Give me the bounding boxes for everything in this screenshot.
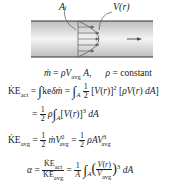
area-label: A <box>59 1 65 12</box>
pipe-velocity-profile-diagram <box>0 0 194 66</box>
ke-act-equation: K̇Eact = ∫keδṁ = ∫A 12 [V(r)]2 [ρV(r) dA… <box>8 83 159 100</box>
velocity-label: V(r) <box>113 1 130 12</box>
alpha-correction-factor: α = K̇EactK̇Eavg = 1A ∫A(V(r)Vavg)3 dA <box>27 160 133 181</box>
mass-flow-equation: ṁ = ρVavg A, ρ = constant <box>44 69 152 80</box>
ke-avg-equation: K̇Eavg = 12 ṁV2avg = 12 ρAV3avg <box>8 132 111 149</box>
ke-act-simplified: = 12 ρ∫A[V(r)]3 dA <box>32 106 99 123</box>
